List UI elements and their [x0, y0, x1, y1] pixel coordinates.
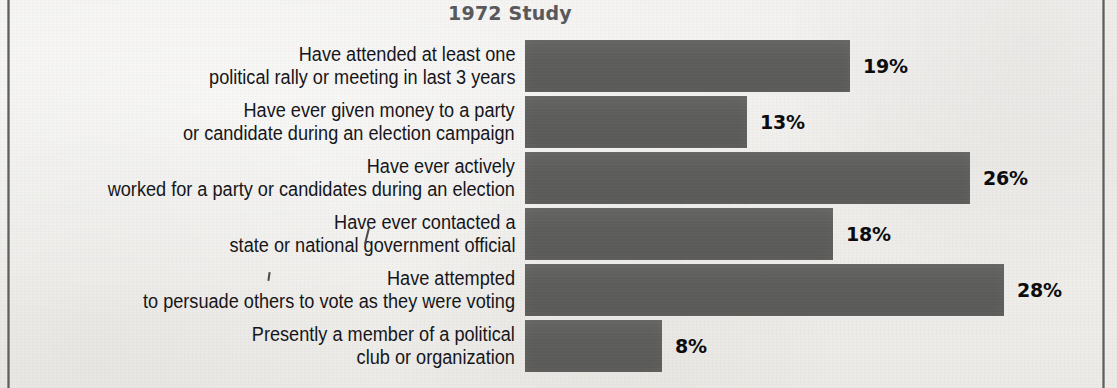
bar-category-label: Have ever activelyworked for a party or …	[77, 155, 515, 201]
bar	[525, 152, 970, 204]
bar	[525, 96, 747, 148]
bar-value-label: 8%	[675, 335, 707, 357]
bar-row: Have ever given money to a partyor candi…	[0, 96, 1117, 148]
bar-row: Have ever contacted astate or national g…	[0, 208, 1117, 260]
bar-category-label-line-1: Have ever contacted a	[229, 211, 515, 234]
bar-chart-plot-area: Have attended at least onepolitical rall…	[0, 0, 1117, 388]
bar-category-label: Presently a member of a politicalclub or…	[232, 323, 515, 369]
bar-category-label: Have ever contacted astate or national g…	[208, 211, 516, 257]
bar-category-label-line-1: Have ever given money to a party	[183, 99, 515, 122]
bar-value-label: 28%	[1017, 279, 1062, 301]
bar-category-label-line-2: to persuade others to vote as they were …	[143, 290, 515, 313]
bar-category-label-line-1: Have ever actively	[108, 155, 515, 178]
bar-row: Presently a member of a politicalclub or…	[0, 320, 1117, 372]
bar-row: Have attended at least onepolitical rall…	[0, 40, 1117, 92]
bar-category-label-line-1: Presently a member of a political	[252, 323, 515, 346]
bar-category-label-line-2: or candidate during an election campaign	[183, 122, 515, 145]
bar-category-label-line-2: political rally or meeting in last 3 yea…	[209, 66, 515, 89]
bar-category-label-line-2: state or national government official	[229, 234, 515, 257]
bar-category-label: Have ever given money to a partyor candi…	[158, 99, 515, 145]
chart-canvas: 1972 Study Have attended at least onepol…	[0, 0, 1117, 388]
bar-category-label-line-2: worked for a party or candidates during …	[108, 178, 515, 201]
bar-category-label: Have attended at least onepolitical rall…	[186, 43, 515, 89]
bar-value-label: 18%	[846, 223, 891, 245]
bar-value-label: 26%	[983, 167, 1028, 189]
bar-category-label-line-2: club or organization	[252, 346, 515, 369]
bar-category-label-line-1: Have attempted	[143, 267, 515, 290]
bar-row: Have attemptedto persuade others to vote…	[0, 264, 1117, 316]
bar	[525, 264, 1004, 316]
bar-category-label-line-1: Have attended at least one	[209, 43, 515, 66]
bar	[525, 208, 833, 260]
bar	[525, 320, 662, 372]
bar-row: Have ever activelyworked for a party or …	[0, 152, 1117, 204]
bar	[525, 40, 850, 92]
bar-value-label: 13%	[760, 111, 805, 133]
bar-value-label: 19%	[863, 55, 908, 77]
bar-category-label: Have attemptedto persuade others to vote…	[115, 267, 515, 313]
